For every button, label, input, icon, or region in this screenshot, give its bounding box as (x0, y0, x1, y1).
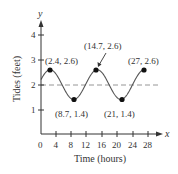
chart-canvas: y x 1 2 3 4 0 4 8 12 16 20 24 28 (0, 0, 178, 174)
tide-chart: y x 1 2 3 4 0 4 8 12 16 20 24 28 (0, 0, 178, 174)
x-axis-var: x (164, 128, 170, 139)
point-label: (21, 1.4) (104, 109, 135, 119)
x-tick-label: 4 (54, 140, 59, 150)
x-tick-label: 24 (128, 140, 138, 150)
x-tick-label: 28 (143, 140, 153, 150)
y-tick-label: 1 (31, 105, 36, 115)
point-trough-1 (71, 97, 76, 102)
x-tick-label: 0 (38, 140, 43, 150)
point-peak-2 (93, 67, 98, 72)
x-axis-title: Time (hours) (74, 153, 126, 165)
y-axis-var: y (37, 8, 43, 19)
x-tick-label: 20 (112, 140, 122, 150)
y-tick-label: 2 (31, 80, 36, 90)
y-tick-label: 3 (31, 55, 36, 65)
x-tick-label: 16 (97, 140, 107, 150)
point-label: (27, 2.6) (128, 56, 159, 66)
y-tick-label: 4 (31, 30, 36, 40)
x-tick-label: 8 (69, 140, 74, 150)
y-axis-title: Tides (feet) (11, 56, 23, 102)
y-axis-arrow-icon (39, 20, 44, 27)
point-trough-2 (119, 97, 124, 102)
point-label: (14.7, 2.6) (84, 41, 122, 51)
x-tick-label: 12 (81, 140, 90, 150)
point-peak-1 (47, 67, 52, 72)
label-pointer-arrow (99, 53, 106, 65)
point-label: (2.4, 2.6) (45, 56, 78, 66)
label-pointer-arrowhead-icon (98, 62, 102, 67)
point-peak-3 (141, 67, 146, 72)
point-label: (8.7, 1.4) (55, 109, 88, 119)
x-axis-arrow-icon (156, 132, 163, 137)
